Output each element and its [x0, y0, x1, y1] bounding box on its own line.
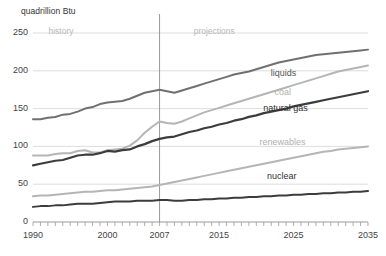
- series-line-natural-gas: [33, 91, 368, 165]
- y-tick-label: 200: [2, 65, 28, 75]
- y-tick-label: 250: [2, 27, 28, 37]
- series-line-coal: [33, 66, 368, 156]
- x-tick-label: 2025: [274, 230, 314, 240]
- x-tick-label: 2007: [140, 230, 180, 240]
- series-label-liquids: liquids: [271, 68, 297, 78]
- period-label-history: history: [49, 26, 74, 36]
- x-tick-label: 2035: [348, 230, 386, 240]
- x-axis-minor-ticks: [33, 222, 368, 226]
- series-label-renewables: renewables: [260, 137, 306, 147]
- series-label-nuclear: nuclear: [267, 171, 297, 181]
- x-tick-label: 1990: [13, 230, 53, 240]
- period-label-projections: projections: [194, 26, 235, 36]
- x-tick-label: 2015: [199, 230, 239, 240]
- series-label-coal: coal: [274, 87, 291, 97]
- y-tick-label: 100: [2, 140, 28, 150]
- series-label-natural-gas: natural gas: [263, 103, 308, 113]
- chart-plot-area: [0, 0, 386, 256]
- y-tick-label: 150: [2, 103, 28, 113]
- y-tick-label: 50: [2, 178, 28, 188]
- series-lines-group: [33, 50, 368, 207]
- series-line-nuclear: [33, 191, 368, 207]
- x-tick-label: 2000: [87, 230, 127, 240]
- energy-consumption-line-chart: quadrillion Btu 050100150200250 19902000…: [0, 0, 386, 256]
- y-tick-label: 0: [2, 216, 28, 226]
